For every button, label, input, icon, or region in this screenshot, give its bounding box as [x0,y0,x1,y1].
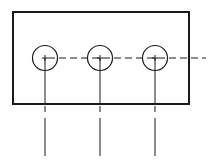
projection-lines-group [45,58,155,156]
technical-drawing [0,0,211,165]
